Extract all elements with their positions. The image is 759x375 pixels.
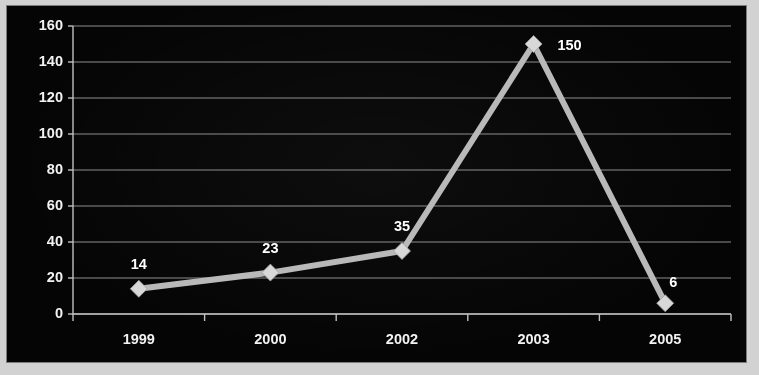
x-tick-label-1999: 1999	[123, 331, 155, 347]
x-tick-label-2000: 2000	[254, 331, 286, 347]
y-tick-label-100: 100	[39, 125, 63, 141]
chart-plot-area: 1601401201008060402001999200020022003200…	[6, 5, 747, 363]
y-tick-label-140: 140	[39, 53, 63, 69]
y-tick-label-80: 80	[47, 161, 63, 177]
data-point-1999[interactable]	[130, 280, 147, 297]
data-label-2000: 23	[262, 240, 278, 256]
data-point-2000[interactable]	[262, 264, 279, 281]
y-tick-label-40: 40	[47, 233, 63, 249]
x-tick-label-2002: 2002	[386, 331, 418, 347]
y-tick-label-120: 120	[39, 89, 63, 105]
x-tick-label-2005: 2005	[649, 331, 681, 347]
x-axis-tick-labels: 19992000200220032005	[123, 331, 682, 347]
line-chart-svg[interactable]: 1601401201008060402001999200020022003200…	[7, 6, 747, 363]
y-tick-label-20: 20	[47, 269, 63, 285]
y-gridlines	[68, 26, 731, 314]
series-markers[interactable]	[130, 36, 673, 312]
data-label-2005: 6	[669, 274, 677, 290]
y-tick-label-0: 0	[55, 305, 63, 321]
data-label-2002: 35	[394, 218, 410, 234]
data-label-1999: 14	[131, 256, 147, 272]
chart-canvas[interactable]: 1601401201008060402001999200020022003200…	[7, 6, 747, 363]
y-axis-tick-labels: 160140120100806040200	[39, 17, 63, 321]
y-tick-label-160: 160	[39, 17, 63, 33]
series-line-series-1[interactable]	[139, 44, 665, 303]
x-axis-ticks	[205, 314, 600, 321]
chart-frame: 1601401201008060402001999200020022003200…	[0, 0, 759, 375]
x-tick-label-2003: 2003	[517, 331, 549, 347]
data-label-2003: 150	[557, 37, 581, 53]
y-tick-label-60: 60	[47, 197, 63, 213]
